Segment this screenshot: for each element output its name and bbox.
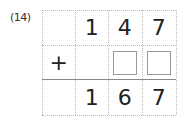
digit-cell: 6 bbox=[108, 80, 142, 115]
plus-operator: + bbox=[42, 45, 76, 80]
answer-cell bbox=[108, 45, 142, 80]
grid-line bbox=[42, 115, 176, 116]
digit-cell bbox=[42, 80, 76, 115]
answer-box-tens[interactable] bbox=[113, 51, 137, 75]
answer-box-ones[interactable] bbox=[147, 51, 171, 75]
digit-cell bbox=[42, 10, 76, 45]
digit-cell: 7 bbox=[142, 10, 176, 45]
digit-cell: 7 bbox=[142, 80, 176, 115]
addition-grid: 1 4 7 + 1 6 7 bbox=[42, 10, 176, 115]
answer-cell bbox=[142, 45, 176, 80]
problem-number: (14) bbox=[10, 11, 31, 24]
digit-cell: 4 bbox=[108, 10, 142, 45]
digit-cell: 1 bbox=[75, 80, 109, 115]
digit-cell: 1 bbox=[75, 10, 109, 45]
grid-line bbox=[176, 10, 177, 115]
